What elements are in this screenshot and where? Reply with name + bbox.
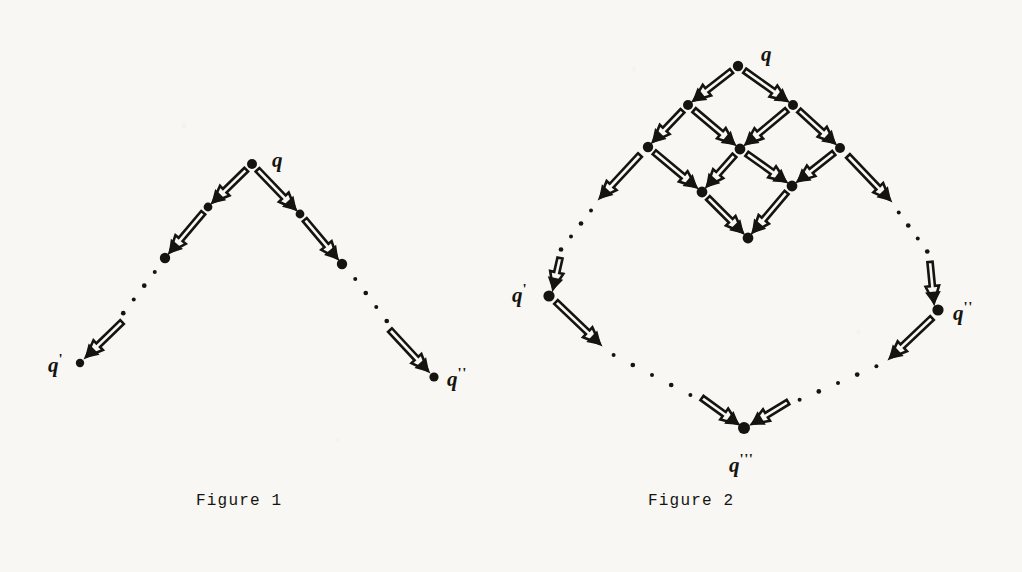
figure-2-arrows — [549, 69, 939, 424]
arrow — [653, 109, 684, 142]
figure-1-dotted-continuations — [121, 270, 389, 323]
node-dot — [247, 159, 257, 169]
arrow — [797, 108, 835, 143]
node-dot — [738, 422, 750, 434]
node-label-f1-q: q — [272, 150, 283, 171]
arrow — [256, 168, 296, 209]
node-label-f2-q: q — [761, 44, 772, 65]
node-label-f2-qpp: q'' — [953, 300, 973, 324]
node-dot — [733, 61, 743, 71]
node-label-f1-qp: q' — [48, 352, 63, 376]
node-label-f2-qppp: q''' — [729, 452, 754, 476]
arrow — [846, 154, 890, 200]
arrow — [600, 153, 642, 198]
arrow — [692, 108, 734, 144]
arrow — [170, 211, 206, 253]
node-dot — [932, 304, 943, 315]
node-dot — [743, 233, 754, 244]
figure-2-caption: Figure 2 — [648, 492, 734, 510]
prime-mark: ''' — [740, 451, 754, 467]
node-dot — [643, 142, 653, 152]
node-dot — [296, 210, 305, 219]
arrow — [706, 196, 743, 233]
node-dot — [543, 290, 554, 301]
figure-1-arrows — [86, 168, 428, 371]
arrow — [303, 218, 338, 258]
arrow — [86, 320, 124, 357]
figure-1-nodes — [76, 159, 439, 382]
node-label-f2-qp: q' — [512, 282, 527, 306]
arrow — [745, 152, 786, 182]
node-dot — [787, 181, 798, 192]
dotted-path — [612, 353, 693, 397]
arrow — [549, 257, 563, 289]
arrow — [707, 154, 736, 187]
diagram-canvas — [0, 0, 1022, 572]
arrow — [554, 300, 600, 344]
arrow — [752, 400, 789, 424]
node-dot — [160, 253, 170, 263]
prime-mark: '' — [458, 365, 467, 381]
dotted-path — [559, 209, 593, 252]
node-dot — [337, 259, 347, 269]
arrow — [753, 191, 789, 233]
node-dot — [429, 372, 438, 381]
arrow — [890, 316, 934, 358]
dotted-path — [897, 211, 930, 254]
arrow — [746, 108, 789, 144]
node-dot — [735, 144, 746, 155]
arrow — [653, 150, 697, 187]
arrow — [798, 151, 836, 181]
node-dot — [683, 100, 693, 110]
figure-page: Figure 1 Figure 2 qq'q''qq'q''q''' — [0, 0, 1022, 572]
prime-mark: ' — [523, 281, 528, 297]
arrow — [213, 168, 249, 203]
node-dot — [788, 100, 798, 110]
arrow — [926, 262, 940, 303]
node-label-f1-qpp: q'' — [447, 366, 467, 390]
prime-mark: '' — [964, 299, 973, 315]
dotted-path — [353, 277, 389, 323]
arrow — [743, 69, 787, 101]
figure-1-caption: Figure 1 — [196, 492, 282, 510]
prime-mark: ' — [59, 351, 64, 367]
node-dot — [697, 187, 708, 198]
figure-2-nodes — [543, 61, 943, 434]
arrow — [388, 328, 428, 371]
node-dot — [76, 359, 84, 367]
arrow — [694, 69, 734, 101]
node-dot — [835, 143, 845, 153]
dotted-path — [121, 270, 157, 316]
node-dot — [204, 203, 213, 212]
dotted-path — [798, 364, 879, 402]
arrow — [700, 396, 738, 424]
